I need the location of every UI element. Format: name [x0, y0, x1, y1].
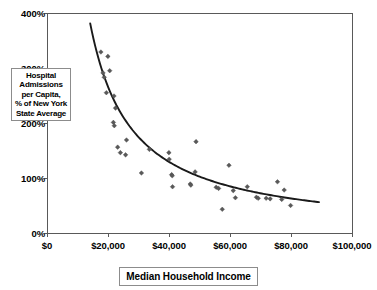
data-point: [231, 188, 236, 193]
data-point: [288, 203, 293, 208]
data-point: [227, 163, 232, 168]
y-axis-title-line-1: Hospital: [13, 71, 69, 80]
y-axis-title-line-5: State Average: [13, 109, 69, 118]
data-point: [170, 184, 175, 189]
data-point: [99, 50, 104, 55]
x-tick-label-80000: $80,000: [261, 240, 321, 251]
data-point: [220, 207, 225, 212]
x-tick-label-0: $0: [17, 240, 77, 251]
y-axis-title-line-3: per Capita,: [13, 90, 69, 99]
x-tick-label-20000: $20,000: [78, 240, 138, 251]
x-tick-label-60000: $60,000: [200, 240, 260, 251]
data-point: [139, 171, 144, 176]
y-axis-title-line-2: Admissions: [13, 80, 69, 89]
data-point: [118, 150, 123, 155]
data-point: [104, 90, 109, 95]
y-axis-title-box: Hospital Admissions per Capita, % of New…: [11, 68, 71, 121]
data-point: [194, 139, 199, 144]
data-point: [167, 150, 172, 155]
y-axis-title-line-4: % of New York: [13, 99, 69, 108]
trend-line: [90, 23, 319, 202]
y-tick-label-400: 400%: [2, 8, 45, 19]
y-tick-label-100: 100%: [2, 173, 45, 184]
data-point: [275, 180, 280, 185]
x-axis-title-box: Median Household Income: [119, 267, 258, 286]
data-point: [233, 195, 238, 200]
data-point: [101, 71, 106, 76]
data-point: [115, 145, 120, 150]
data-point: [107, 68, 112, 73]
x-tick-label-40000: $40,000: [139, 240, 199, 251]
data-point: [245, 184, 250, 189]
chart-container: 400% 300% 200% 100% 0% $0 $20,000 $40,00…: [0, 0, 377, 290]
data-point-group: [99, 50, 293, 212]
data-point: [124, 138, 129, 143]
y-tick-label-0: 0%: [2, 228, 45, 239]
data-point: [106, 54, 111, 59]
data-point: [264, 196, 269, 201]
data-point: [123, 153, 128, 158]
x-tick-label-100000: $100,000: [320, 240, 377, 251]
data-point: [268, 197, 273, 202]
data-point: [282, 188, 287, 193]
